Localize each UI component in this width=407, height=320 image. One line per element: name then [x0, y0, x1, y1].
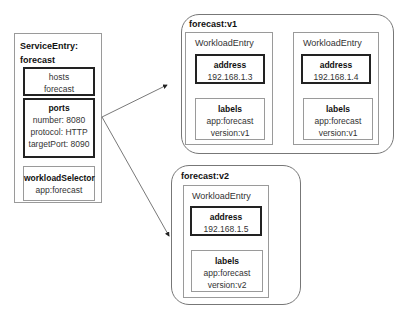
arrows-layer [0, 0, 407, 320]
arrow-to-v2 [102, 117, 169, 236]
arrow-to-v1 [102, 85, 167, 117]
